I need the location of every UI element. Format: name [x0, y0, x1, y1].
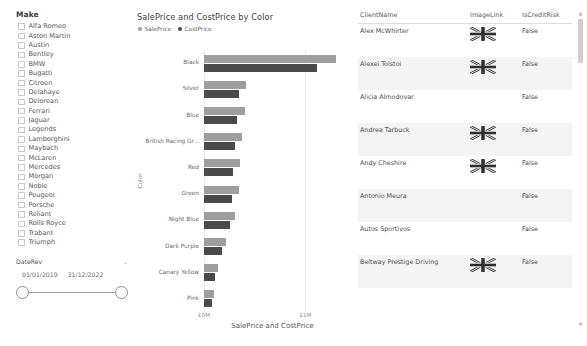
make-slicer-item[interactable]: Lamborghini — [14, 135, 126, 144]
checkbox-icon[interactable] — [18, 23, 25, 30]
checkbox-icon[interactable] — [18, 211, 25, 218]
checkbox-icon[interactable] — [18, 155, 25, 162]
chart-bar[interactable] — [204, 290, 214, 298]
client-table-visual[interactable]: ClientName ImageLink IsCreditRisk Alex M… — [358, 8, 572, 330]
chart-bar[interactable] — [204, 186, 239, 194]
chart-bar[interactable] — [204, 55, 336, 63]
checkbox-icon[interactable] — [18, 136, 25, 143]
make-slicer: Make Alfa RomeoAston MartinAustinBentley… — [14, 10, 126, 260]
date-start-value[interactable]: 01/01/2019 — [22, 271, 58, 278]
table-row[interactable]: Alexei TolstoiFalse — [358, 57, 572, 90]
make-slicer-item[interactable]: Noble — [14, 182, 126, 191]
make-slicer-item[interactable]: Peugeot — [14, 191, 126, 200]
checkbox-icon[interactable] — [18, 174, 25, 181]
make-slicer-item[interactable]: Rolls Royce — [14, 219, 126, 228]
table-row[interactable]: Andrea TarbuckFalse — [358, 123, 572, 156]
checkbox-icon[interactable] — [18, 52, 25, 59]
checkbox-icon[interactable] — [18, 164, 25, 171]
checkbox-icon[interactable] — [18, 127, 25, 134]
make-slicer-item[interactable]: Reliant — [14, 210, 126, 219]
make-slicer-item[interactable]: McLaren — [14, 153, 126, 162]
make-slicer-item[interactable]: Legends — [14, 125, 126, 134]
cell-clientname: Andy Cheshire — [358, 156, 468, 189]
chart-bar[interactable] — [204, 238, 226, 246]
make-slicer-item[interactable]: Jaguar — [14, 116, 126, 125]
checkbox-icon[interactable] — [18, 221, 25, 228]
chart-bar[interactable] — [204, 195, 232, 203]
chart-bar[interactable] — [204, 133, 242, 141]
chart-bar[interactable] — [204, 64, 317, 72]
make-slicer-item[interactable]: Maybach — [14, 144, 126, 153]
chart-bar[interactable] — [204, 168, 233, 176]
slider-handle-start[interactable] — [16, 286, 29, 299]
checkbox-icon[interactable] — [18, 108, 25, 115]
table-scrollbar[interactable]: ▲ ▼ — [577, 10, 584, 328]
make-slicer-item[interactable]: Delorean — [14, 97, 126, 106]
checkbox-icon[interactable] — [18, 70, 25, 77]
checkbox-icon[interactable] — [18, 117, 25, 124]
table-row[interactable]: Alex McWhirterFalse — [358, 24, 572, 57]
scroll-down-arrow-icon[interactable]: ▼ — [577, 321, 584, 328]
checkbox-icon[interactable] — [18, 33, 25, 40]
chart-bar[interactable] — [204, 142, 235, 150]
make-slicer-item[interactable]: Citroen — [14, 78, 126, 87]
slider-handle-end[interactable] — [115, 286, 128, 299]
date-end-value[interactable]: 31/12/2022 — [68, 271, 104, 278]
chart-bar[interactable] — [204, 247, 222, 255]
chart-bar[interactable] — [204, 81, 246, 89]
table-row[interactable]: Beltway Prestige DrivingFalse — [358, 255, 572, 288]
table-row[interactable]: Andy CheshireFalse — [358, 156, 572, 189]
make-slicer-item[interactable]: BMW — [14, 60, 126, 69]
checkbox-icon[interactable] — [18, 183, 25, 190]
make-slicer-item[interactable]: Porsche — [14, 200, 126, 209]
chart-bar[interactable] — [204, 212, 235, 220]
chart-bar[interactable] — [204, 116, 237, 124]
make-slicer-item[interactable]: Alfa Romeo — [14, 22, 126, 31]
make-slicer-item[interactable]: Trabant — [14, 229, 126, 238]
chevron-down-icon[interactable]: ⌄ — [123, 259, 128, 265]
date-range-slider[interactable] — [16, 285, 128, 301]
checkbox-icon[interactable] — [18, 202, 25, 209]
chart-bar[interactable] — [204, 299, 212, 307]
legend-item[interactable]: SalePrice — [138, 26, 171, 32]
table-row[interactable]: Autos SportivosFalse — [358, 222, 572, 255]
chart-bar[interactable] — [204, 273, 215, 281]
table-row[interactable]: Antonio MeuraFalse — [358, 189, 572, 222]
checkbox-icon[interactable] — [18, 192, 25, 199]
make-slicer-item-label: Alfa Romeo — [29, 22, 67, 31]
chart-bar[interactable] — [204, 159, 240, 167]
chart-bar[interactable] — [204, 107, 245, 115]
make-slicer-item[interactable]: Aston Martin — [14, 31, 126, 40]
chart-bar[interactable] — [204, 264, 218, 272]
checkbox-icon[interactable] — [18, 99, 25, 106]
x-axis: SalePrice and CostPrice £0M£1M — [204, 312, 341, 334]
make-slicer-item-label: Bentley — [29, 50, 54, 59]
make-slicer-item[interactable]: Delahaye — [14, 88, 126, 97]
make-slicer-item[interactable]: Morgan — [14, 172, 126, 181]
make-slicer-item[interactable]: Ferrari — [14, 107, 126, 116]
checkbox-icon[interactable] — [18, 146, 25, 153]
checkbox-icon[interactable] — [18, 239, 25, 246]
column-header-iscreditrisk[interactable]: IsCreditRisk — [520, 8, 572, 24]
table-row[interactable]: Alicia AlmodovarFalse — [358, 90, 572, 123]
make-slicer-item[interactable]: Austin — [14, 41, 126, 50]
checkbox-icon[interactable] — [18, 42, 25, 49]
chart-bar[interactable] — [204, 90, 239, 98]
checkbox-icon[interactable] — [18, 89, 25, 96]
chart-bar[interactable] — [204, 221, 230, 229]
bar-chart-visual[interactable]: SalePrice and CostPrice by Color SalePri… — [130, 8, 345, 338]
make-slicer-item[interactable]: Triumph — [14, 238, 126, 247]
checkbox-icon[interactable] — [18, 61, 25, 68]
make-slicer-item[interactable]: Bugatti — [14, 69, 126, 78]
date-slicer[interactable]: DateRev ⌄ 01/01/2019 31/12/2022 — [16, 258, 128, 301]
checkbox-icon[interactable] — [18, 230, 25, 237]
legend-item[interactable]: CostPrice — [178, 26, 212, 32]
column-header-clientname[interactable]: ClientName — [358, 8, 468, 24]
scroll-up-arrow-icon[interactable]: ▲ — [577, 10, 584, 17]
scrollbar-thumb[interactable] — [578, 19, 583, 63]
make-slicer-item[interactable]: Mercedes — [14, 163, 126, 172]
make-slicer-item[interactable]: Bentley — [14, 50, 126, 59]
make-slicer-item-label: Peugeot — [29, 191, 56, 200]
checkbox-icon[interactable] — [18, 80, 25, 87]
column-header-imagelink[interactable]: ImageLink — [468, 8, 520, 24]
